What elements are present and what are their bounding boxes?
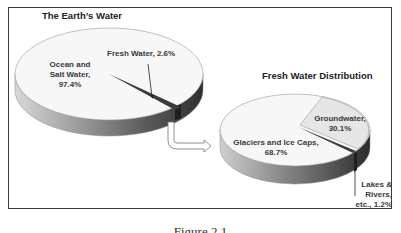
label-line: Lakes & [350,180,392,190]
pie2-label-glaciers: Glaciers and Ice Caps, 68.7% [226,138,326,158]
figure-caption: Figure 2.1 [0,224,401,233]
label-line: 30.1% [311,124,369,134]
label-line: Rivers, [350,190,392,200]
label-line: Ocean and [40,60,100,70]
label-line: 68.7% [226,148,326,158]
pie1-label-fresh: Fresh Water, 2.6% [107,49,175,59]
label-line: etc., 1.2% [350,200,392,210]
pie2-label-groundwater: Groundwater, 30.1% [311,114,369,134]
pie2-title: Fresh Water Distribution [262,70,373,81]
label-line: Glaciers and Ice Caps, [226,138,326,148]
pie1-title: The Earth’s Water [42,10,122,21]
label-line: 97.4% [40,80,100,90]
pie2-lakes-side [354,152,357,172]
label-line: Groundwater, [311,114,369,124]
pie2-label-lakes: Lakes & Rivers, etc., 1.2% [350,180,392,210]
connector-arrow [168,122,211,152]
label-line: Salt Water, [40,70,100,80]
pie1-label-ocean: Ocean and Salt Water, 97.4% [40,60,100,90]
